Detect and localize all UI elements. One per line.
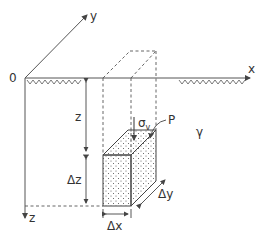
dx-dimension	[103, 209, 131, 218]
y-axis-label: y	[90, 9, 97, 23]
depth-label: z	[75, 110, 81, 124]
stress-label: σv	[138, 116, 151, 132]
z-axis-label: z	[29, 211, 35, 225]
stress-subscript: v	[146, 123, 151, 132]
soil-element	[103, 130, 156, 206]
y-axis	[25, 15, 87, 78]
ground-hatch-left	[27, 80, 81, 84]
x-axis-label: x	[248, 62, 255, 76]
delta-y-label: Δy	[158, 187, 173, 201]
delta-z-label: Δz	[67, 173, 82, 187]
front-face	[103, 155, 131, 206]
depth-dimension	[83, 82, 89, 203]
point-p-label: P	[168, 113, 175, 127]
soil-element-diagram: 0 x y z z Δz Δx Δy σv P γ	[0, 0, 264, 231]
delta-x-label: Δx	[107, 219, 122, 231]
ground-hatch-right	[179, 80, 245, 84]
unit-weight-label: γ	[196, 125, 203, 139]
origin-label: 0	[9, 71, 17, 85]
